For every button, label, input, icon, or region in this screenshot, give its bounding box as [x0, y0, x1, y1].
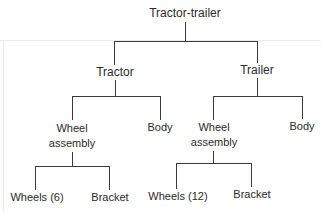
faint-border: [3, 40, 4, 212]
edge: [114, 41, 258, 42]
node-trailer-wheels: Wheels (12): [148, 190, 207, 203]
edge: [176, 163, 177, 189]
edge: [251, 163, 252, 187]
edge: [115, 80, 116, 96]
label-line: Wheel: [191, 121, 237, 134]
edge: [160, 96, 161, 120]
label-line: assembly: [49, 137, 95, 150]
edge: [35, 166, 110, 167]
edge: [213, 151, 214, 163]
node-trailer-body: Body: [289, 120, 314, 133]
node-tractor-body: Body: [147, 121, 172, 134]
edge: [185, 22, 186, 41]
edge: [176, 163, 252, 164]
edge: [35, 166, 36, 190]
node-tractor: Tractor: [96, 66, 134, 79]
label-line: assembly: [191, 136, 237, 149]
edge: [109, 166, 110, 190]
edge: [213, 96, 214, 120]
edge: [72, 152, 73, 166]
edge: [257, 78, 258, 96]
edge: [72, 96, 161, 97]
edge: [257, 41, 258, 63]
node-trailer: Trailer: [240, 64, 274, 77]
edge: [72, 96, 73, 120]
edge: [114, 41, 115, 65]
node-root: Tractor-trailer: [149, 7, 221, 20]
node-trailer-wheel-assembly: Wheel assembly: [191, 121, 237, 149]
node-trailer-bracket: Bracket: [233, 188, 270, 201]
edge: [213, 96, 303, 97]
label-line: Wheel: [49, 122, 95, 135]
node-tractor-bracket: Bracket: [91, 191, 128, 204]
node-tractor-wheels: Wheels (6): [10, 191, 63, 204]
node-tractor-wheel-assembly: Wheel assembly: [49, 122, 95, 150]
edge: [302, 96, 303, 119]
